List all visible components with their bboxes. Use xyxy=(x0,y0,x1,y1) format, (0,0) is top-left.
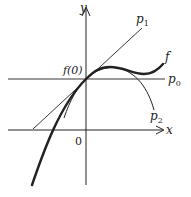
origin-label: 0 xyxy=(75,135,82,148)
f0-point-label: f(0) xyxy=(62,64,83,77)
label-p2: p2 xyxy=(150,109,163,125)
curve-f xyxy=(32,64,163,185)
label-p1: p1 xyxy=(136,12,149,28)
y-axis xyxy=(82,7,90,185)
label-f: f xyxy=(164,50,172,64)
taylor-approximation-diagram: y x 0 f(0) f p0 p1 p2 xyxy=(0,0,191,197)
x-axis-label: x xyxy=(166,123,173,137)
y-axis-label: y xyxy=(79,1,87,15)
label-p0: p0 xyxy=(168,72,181,88)
